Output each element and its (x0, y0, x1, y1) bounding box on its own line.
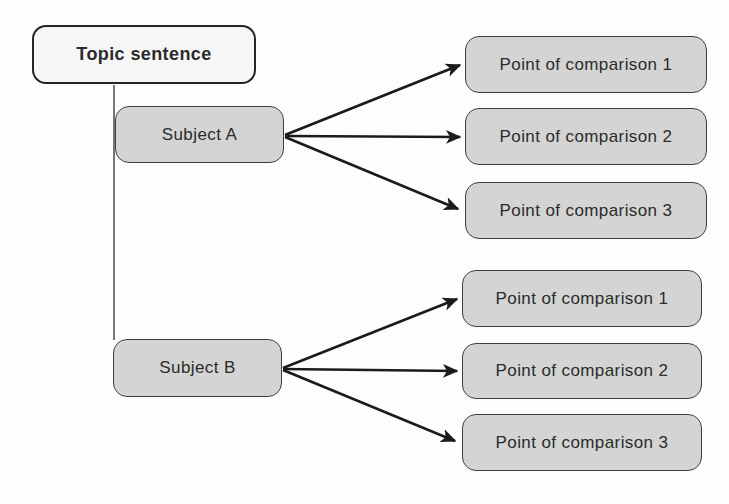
arrow-subject-b-to-point-2 (283, 369, 457, 371)
arrow-subject-a-to-point-2 (285, 136, 460, 137)
subject-a-point-1-box: Point of comparison 1 (465, 36, 707, 93)
subject-a-point-3-label: Point of comparison 3 (500, 201, 673, 221)
subject-b-point-1-label: Point of comparison 1 (496, 289, 669, 309)
subject-b-point-2-label: Point of comparison 2 (496, 361, 669, 381)
topic-sentence-label: Topic sentence (76, 44, 211, 65)
subject-b-box: Subject B (113, 339, 282, 397)
subject-a-point-2-label: Point of comparison 2 (500, 127, 673, 147)
subject-b-point-2-box: Point of comparison 2 (462, 343, 702, 399)
subject-a-point-3-box: Point of comparison 3 (465, 182, 707, 239)
subject-a-point-1-label: Point of comparison 1 (500, 55, 673, 75)
subject-b-label: Subject B (159, 358, 235, 378)
arrow-subject-a-to-point-1 (285, 65, 460, 135)
subject-b-point-3-box: Point of comparison 3 (462, 414, 702, 471)
subject-a-box: Subject A (115, 106, 284, 163)
subject-a-label: Subject A (162, 125, 237, 145)
arrow-subject-b-to-point-1 (283, 299, 457, 368)
arrow-subject-a-to-point-3 (285, 137, 458, 209)
topic-sentence-box: Topic sentence (32, 25, 256, 84)
subject-b-point-3-label: Point of comparison 3 (496, 433, 669, 453)
subject-a-point-2-box: Point of comparison 2 (465, 108, 707, 165)
arrow-subject-b-to-point-3 (283, 370, 455, 441)
subject-b-point-1-box: Point of comparison 1 (462, 270, 702, 327)
comparison-diagram: Topic sentence Subject A Point of compar… (0, 0, 729, 504)
